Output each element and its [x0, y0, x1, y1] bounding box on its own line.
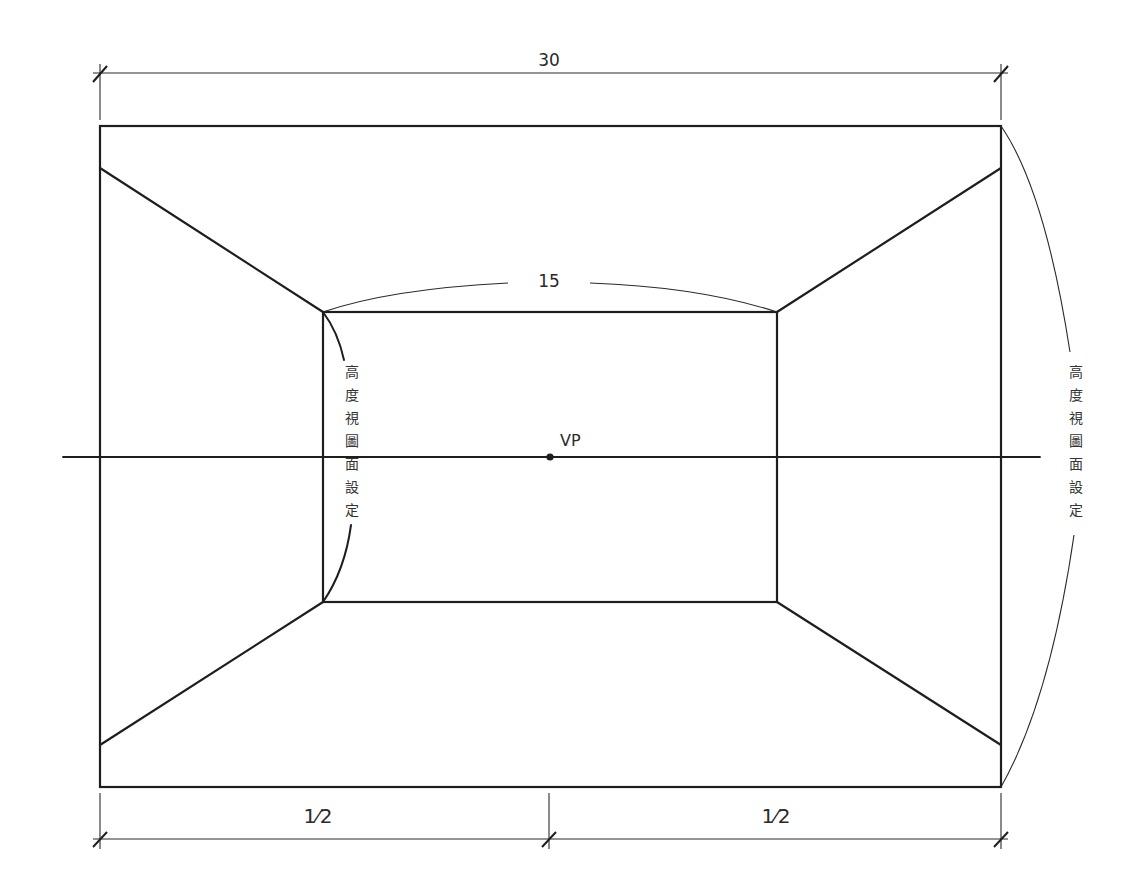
label-char: 面	[1066, 453, 1086, 476]
inner-width-arc: 15	[323, 271, 777, 312]
vanishing-point-label: VP	[560, 431, 581, 450]
label-char: 高	[342, 361, 362, 384]
label-char: 視	[342, 407, 362, 430]
label-char: 度	[1066, 384, 1086, 407]
perspective-diagram: 30 VP 15 1⁄2	[0, 0, 1142, 892]
label-char: 圖	[1066, 430, 1086, 453]
label-char: 圖	[342, 430, 362, 453]
label-char: 視	[1066, 407, 1086, 430]
left-height-label: 高 度 視 圖 面 設 定	[342, 361, 362, 522]
bottom-right-dimension-label: 1⁄2	[762, 804, 791, 828]
bottom-dimension: 1⁄2 1⁄2	[93, 793, 1008, 849]
label-char: 定	[342, 499, 362, 522]
label-char: 設	[1066, 476, 1086, 499]
label-char: 高	[1066, 361, 1086, 384]
label-char: 面	[342, 453, 362, 476]
inner-width-label: 15	[538, 271, 560, 291]
label-char: 定	[1066, 499, 1086, 522]
label-char: 度	[342, 384, 362, 407]
top-dimension: 30	[93, 50, 1008, 120]
top-dimension-label: 30	[538, 50, 560, 70]
right-height-label: 高 度 視 圖 面 設 定	[1066, 361, 1086, 522]
label-char: 設	[342, 476, 362, 499]
bottom-left-dimension-label: 1⁄2	[304, 804, 333, 828]
